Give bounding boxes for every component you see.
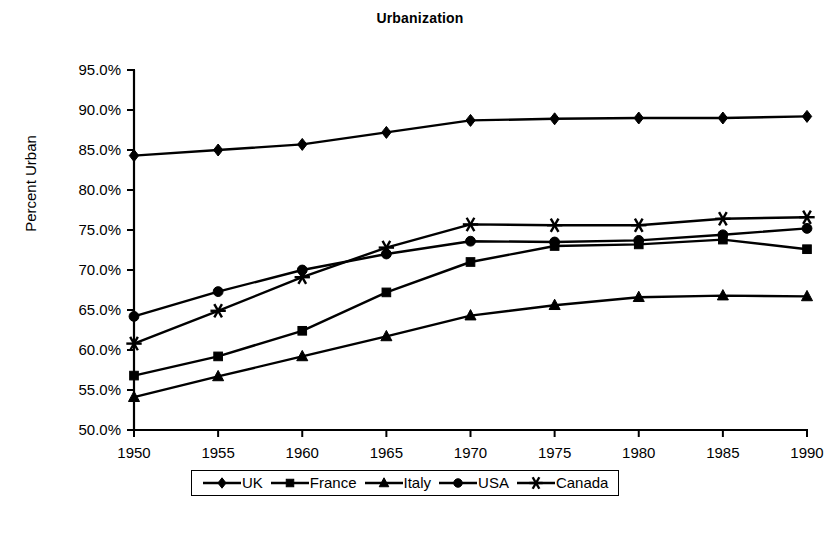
data-point-star — [631, 219, 646, 232]
x-axis-ticks: 195019551960196519701975198019851990 — [117, 429, 823, 461]
legend-entry-uk[interactable]: UK — [202, 474, 263, 492]
y-tick-label: 90.0% — [78, 101, 121, 118]
x-tick-label: 1990 — [790, 444, 823, 461]
y-tick-label: 80.0% — [78, 181, 121, 198]
data-point-star — [547, 219, 562, 232]
data-point-square — [298, 326, 307, 335]
data-point-diamond — [550, 113, 559, 125]
y-axis-ticks: 50.0%55.0%60.0%65.0%70.0%75.0%80.0%85.0%… — [78, 61, 135, 438]
legend-label: France — [310, 474, 357, 492]
data-point-circle — [466, 236, 476, 246]
legend-marker-circle-icon — [438, 474, 478, 492]
y-tick-label: 85.0% — [78, 141, 121, 158]
data-point-circle — [550, 237, 560, 247]
legend-entry-france[interactable]: France — [270, 474, 357, 492]
legend-marker-square-icon — [270, 474, 310, 492]
legend-entry-usa[interactable]: USA — [438, 474, 509, 492]
data-point-diamond — [802, 110, 811, 122]
legend-label: USA — [478, 474, 509, 492]
legend-label: Canada — [556, 474, 609, 492]
data-point-circle — [454, 479, 463, 488]
series-france — [130, 235, 812, 380]
data-point-star — [799, 211, 814, 224]
legend-entry-italy[interactable]: Italy — [364, 474, 432, 492]
legend-label: UK — [242, 474, 263, 492]
x-tick-label: 1955 — [201, 444, 234, 461]
legend-marker-triangle-icon — [364, 474, 404, 492]
chart-container: Urbanization Percent Urban 50.0%55.0%60.… — [0, 0, 840, 537]
x-tick-label: 1965 — [370, 444, 403, 461]
data-point-star — [715, 212, 730, 225]
data-point-square — [130, 371, 139, 380]
y-tick-label: 60.0% — [78, 341, 121, 358]
data-point-diamond — [382, 126, 391, 138]
y-tick-label: 50.0% — [78, 421, 121, 438]
data-point-square — [466, 258, 475, 267]
x-tick-label: 1980 — [622, 444, 655, 461]
data-point-star — [529, 477, 542, 489]
y-tick-label: 55.0% — [78, 381, 121, 398]
data-series-group — [126, 110, 814, 401]
x-tick-label: 1985 — [706, 444, 739, 461]
y-tick-label: 65.0% — [78, 301, 121, 318]
data-point-square — [382, 288, 391, 297]
chart-legend: UKFranceItalyUSACanada — [191, 470, 619, 496]
series-canada — [126, 211, 814, 351]
data-point-diamond — [213, 144, 222, 156]
legend-entry-canada[interactable]: Canada — [516, 474, 609, 492]
data-point-star — [463, 218, 478, 231]
data-point-diamond — [634, 112, 643, 124]
series-uk — [129, 110, 811, 161]
legend-marker-diamond-icon — [202, 474, 242, 492]
data-point-diamond — [129, 150, 138, 162]
data-point-circle — [718, 230, 728, 240]
data-point-star — [210, 304, 225, 317]
data-point-diamond — [218, 478, 226, 488]
data-point-circle — [213, 287, 223, 297]
data-point-square — [214, 352, 223, 361]
y-tick-label: 75.0% — [78, 221, 121, 238]
x-tick-label: 1950 — [117, 444, 150, 461]
legend-marker-star-icon — [516, 474, 556, 492]
x-tick-label: 1970 — [454, 444, 487, 461]
y-tick-label: 95.0% — [78, 61, 121, 78]
y-tick-label: 70.0% — [78, 261, 121, 278]
data-point-square — [803, 245, 812, 254]
data-point-diamond — [718, 112, 727, 124]
data-point-diamond — [466, 114, 475, 126]
data-point-diamond — [298, 138, 307, 150]
x-tick-label: 1975 — [538, 444, 571, 461]
data-point-circle — [634, 235, 644, 245]
data-point-circle — [129, 311, 139, 321]
legend-label: Italy — [404, 474, 432, 492]
x-tick-label: 1960 — [286, 444, 319, 461]
plot-area: 50.0%55.0%60.0%65.0%70.0%75.0%80.0%85.0%… — [0, 0, 840, 537]
data-point-square — [286, 479, 293, 486]
data-point-circle — [802, 223, 812, 233]
